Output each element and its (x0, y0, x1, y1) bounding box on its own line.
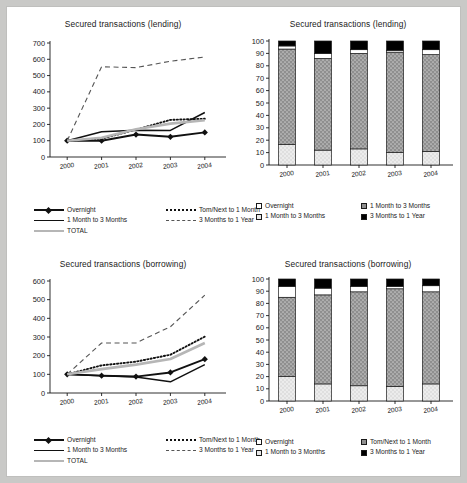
line-swatch-total-icon (34, 460, 64, 462)
svg-text:20: 20 (256, 136, 264, 145)
lending-lines-svg: 0100200300400500600700200020012002200320… (10, 29, 236, 189)
panel-lending-bars: Secured transactions (lending) 010203040… (236, 13, 460, 251)
plot-borrowing-lines: 010020030040050060020002001200220032004 (10, 269, 236, 425)
line-swatch-3m1y-icon (166, 220, 196, 221)
bar-swatch-1m3m-light-icon (256, 214, 262, 220)
svg-text:2000: 2000 (279, 405, 295, 414)
legend-label: 3 Months to 1 Year (370, 449, 425, 456)
legend-item: 1 Month to 3 Months (256, 213, 361, 220)
legend-item: Overnight (256, 439, 361, 446)
line-swatch-overnight-icon (34, 209, 64, 211)
svg-text:100: 100 (252, 275, 264, 284)
legend-label: TOTAL (67, 458, 88, 465)
svg-text:2001: 2001 (315, 405, 331, 414)
svg-text:80: 80 (256, 61, 264, 70)
bar-swatch-1m3m-icon (256, 450, 262, 456)
legend-label: Overnight (265, 439, 294, 446)
chart-title-lending-lines: Secured transactions (lending) (10, 13, 236, 29)
bar-swatch-overnight-icon (256, 203, 262, 209)
legend-item: 1 Month to 3 Months (34, 217, 166, 224)
legend-item: Overnight (256, 203, 361, 210)
svg-text:2002: 2002 (351, 169, 367, 178)
svg-text:0: 0 (260, 397, 264, 406)
svg-text:100: 100 (252, 37, 264, 46)
svg-text:2000: 2000 (279, 169, 295, 178)
svg-text:300: 300 (33, 104, 45, 113)
svg-text:400: 400 (33, 314, 45, 323)
chart-title-borrowing-lines: Secured transactions (borrowing) (10, 253, 236, 269)
legend-item: 1 Month to 3 Months (34, 447, 166, 454)
svg-text:2000: 2000 (59, 161, 75, 170)
chart-title-lending-bars: Secured transactions (lending) (236, 13, 460, 29)
svg-text:200: 200 (33, 351, 45, 360)
svg-text:2000: 2000 (59, 397, 75, 406)
svg-text:2004: 2004 (197, 397, 213, 406)
legend-label: 1 Month to 3 Months (370, 203, 430, 210)
legend-borrowing-bars: Overnight 1 Month to 3 Months Tom/Next t… (256, 439, 431, 460)
plot-borrowing-bars: 0102030405060708090100200020012002200320… (236, 269, 460, 431)
lending-bars-svg: 0102030405060708090100200020012002200320… (236, 29, 460, 195)
panel-lending-lines: Secured transactions (lending) 010020030… (10, 13, 236, 251)
svg-text:2004: 2004 (423, 169, 439, 178)
legend-label: TOTAL (67, 228, 88, 235)
legend-label: 1 Month to 3 Months (67, 447, 127, 454)
line-swatch-tomnext-icon (166, 439, 196, 441)
bar-swatch-overnight-icon (256, 439, 262, 445)
svg-text:100: 100 (33, 370, 45, 379)
svg-text:500: 500 (33, 71, 45, 80)
plot-lending-bars: 0102030405060708090100200020012002200320… (236, 29, 460, 195)
bar-swatch-tomnext-icon (361, 439, 367, 445)
svg-text:2001: 2001 (94, 397, 110, 406)
legend-label: Overnight (265, 203, 294, 210)
legend-item: Overnight (34, 437, 166, 444)
svg-text:10: 10 (256, 384, 264, 393)
chart-grid: Secured transactions (lending) 010020030… (7, 7, 460, 476)
plot-lending-lines: 0100200300400500600700200020012002200320… (10, 29, 236, 189)
legend-label: 1 Month to 3 Months (265, 213, 325, 220)
legend-lending-bars: Overnight 1 Month to 3 Months 1 Month to… (256, 203, 430, 224)
svg-text:600: 600 (33, 55, 45, 64)
svg-text:700: 700 (33, 39, 45, 48)
borrowing-lines-svg: 010020030040050060020002001200220032004 (10, 269, 236, 425)
svg-text:400: 400 (33, 87, 45, 96)
legend-item: 3 Months to 1 Year (361, 449, 431, 456)
line-swatch-total-icon (34, 230, 64, 232)
legend-item: TOTAL (34, 458, 166, 465)
svg-text:2002: 2002 (351, 405, 367, 414)
chart-title-borrowing-bars: Secured transactions (borrowing) (236, 253, 460, 269)
svg-text:90: 90 (256, 49, 264, 58)
legend-item: Overnight (34, 207, 166, 214)
svg-text:2003: 2003 (162, 397, 178, 406)
svg-text:60: 60 (256, 86, 264, 95)
svg-text:2003: 2003 (387, 405, 403, 414)
svg-text:500: 500 (33, 295, 45, 304)
panel-borrowing-lines: Secured transactions (borrowing) 0100200… (10, 253, 236, 475)
legend-item: Tom/Next to 1 Month (361, 439, 431, 446)
legend-borrowing-lines: Overnight 1 Month to 3 Months TOTAL (34, 437, 260, 468)
legend-item: TOTAL (34, 228, 166, 235)
borrowing-bars-svg: 0102030405060708090100200020012002200320… (236, 269, 460, 431)
legend-item: 1 Month to 3 Months (256, 449, 361, 456)
svg-text:50: 50 (256, 336, 264, 345)
svg-text:2004: 2004 (423, 405, 439, 414)
svg-text:40: 40 (256, 348, 264, 357)
svg-text:2002: 2002 (128, 161, 144, 170)
bar-swatch-3m1y-icon (361, 450, 367, 456)
svg-text:600: 600 (33, 277, 45, 286)
svg-text:100: 100 (33, 136, 45, 145)
svg-text:10: 10 (256, 148, 264, 157)
legend-label: 3 Months to 1 Year (370, 213, 425, 220)
line-swatch-tomnext-icon (166, 209, 196, 211)
svg-text:0: 0 (260, 161, 264, 170)
legend-label: 1 Month to 3 Months (265, 449, 325, 456)
svg-text:2004: 2004 (197, 161, 213, 170)
svg-text:300: 300 (33, 333, 45, 342)
svg-text:2001: 2001 (315, 169, 331, 178)
svg-text:2002: 2002 (128, 397, 144, 406)
panel-borrowing-bars: Secured transactions (borrowing) 0102030… (236, 253, 460, 475)
legend-label: 1 Month to 3 Months (67, 217, 127, 224)
bar-swatch-1m3m-dotted-icon (361, 203, 367, 209)
legend-lending-lines: Overnight 1 Month to 3 Months TOTAL (34, 207, 260, 238)
svg-text:30: 30 (256, 360, 264, 369)
svg-text:80: 80 (256, 299, 264, 308)
